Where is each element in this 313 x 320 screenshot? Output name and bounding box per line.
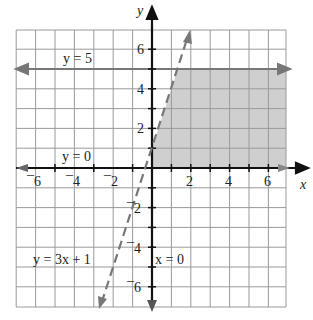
svg-text:¯2: ¯2 xyxy=(126,201,141,216)
label-y-equals-5: y = 5 xyxy=(63,51,92,66)
svg-text:2: 2 xyxy=(137,121,144,136)
label-y-equals-0: y = 0 xyxy=(62,149,91,164)
y-axis-label: y xyxy=(135,3,144,18)
svg-text:4: 4 xyxy=(137,82,144,97)
svg-text:¯4: ¯4 xyxy=(126,241,141,256)
svg-text:¯4: ¯4 xyxy=(65,174,80,189)
x-tick-labels: ¯6 ¯4 ¯2 2 4 6 xyxy=(26,174,271,189)
svg-text:6: 6 xyxy=(264,174,271,189)
x-axis-label: x xyxy=(299,177,307,192)
label-x-equals-0: x = 0 xyxy=(155,252,184,267)
label-y-equals-3x-plus-1: y = 3x + 1 xyxy=(33,252,91,267)
svg-text:6: 6 xyxy=(137,42,144,57)
svg-text:¯6: ¯6 xyxy=(126,280,141,295)
svg-text:2: 2 xyxy=(186,174,193,189)
svg-text:¯2: ¯2 xyxy=(103,174,118,189)
svg-text:¯6: ¯6 xyxy=(26,174,41,189)
graph: ¯6 ¯4 ¯2 2 4 6 6 4 2 ¯2 ¯4 ¯6 y x y = 5 … xyxy=(0,0,313,320)
svg-text:4: 4 xyxy=(225,174,232,189)
